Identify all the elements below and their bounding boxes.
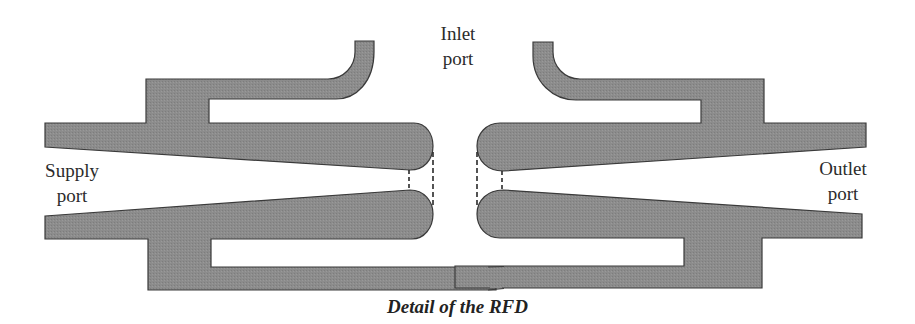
supply-port-label: Supply port bbox=[36, 158, 108, 208]
supply-port-label-line1: Supply bbox=[36, 158, 108, 183]
bottom-connector-top-edge bbox=[488, 267, 504, 268]
outlet-port-label-line2: port bbox=[808, 181, 878, 206]
left-lower-body bbox=[45, 190, 496, 290]
outlet-port-label: Outlet port bbox=[808, 156, 878, 206]
bottom-connector bbox=[490, 267, 502, 288]
right-lower-body bbox=[455, 190, 862, 288]
inlet-port-label-line2: port bbox=[428, 46, 488, 71]
supply-port-label-line2: port bbox=[36, 183, 108, 208]
outlet-port-label-line1: Outlet bbox=[808, 156, 878, 181]
inlet-port-label-line1: Inlet bbox=[428, 21, 488, 46]
right-upper-body bbox=[477, 42, 866, 171]
inlet-port-label: Inlet port bbox=[428, 21, 488, 71]
figure-caption: Detail of the RFD bbox=[330, 296, 585, 318]
left-upper-body bbox=[45, 41, 433, 170]
